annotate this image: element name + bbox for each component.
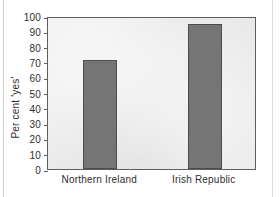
x-axis-tick-label: Irish Republic: [172, 174, 235, 185]
y-axis-tick-label: 70: [29, 59, 41, 69]
bar: [83, 60, 117, 169]
plot-area: 0102030405060708090100: [47, 17, 256, 170]
y-axis-tick: 30: [29, 120, 48, 130]
y-axis-tick-label: 30: [29, 120, 41, 130]
y-axis-tick: 100: [24, 13, 48, 23]
y-axis-tick-label: 100: [24, 13, 41, 23]
bar-chart-figure: Per cent 'yes' 0102030405060708090100 No…: [0, 0, 279, 197]
y-axis-tick-label: 0: [35, 166, 41, 176]
y-axis-tick: 40: [29, 105, 48, 115]
y-axis-tick: 60: [29, 74, 48, 84]
y-axis-tick-label: 90: [29, 28, 41, 38]
y-axis-tick-label: 50: [29, 90, 41, 100]
page-edge-rule-left: [3, 0, 4, 197]
y-axis-title: Per cent 'yes': [8, 31, 22, 184]
y-axis-tick-mark: [44, 171, 48, 172]
y-axis-tick: 90: [29, 28, 48, 38]
y-axis-tick-label: 40: [29, 105, 41, 115]
y-axis-tick: 20: [29, 135, 48, 145]
y-axis-tick-label: 80: [29, 44, 41, 54]
y-axis-tick-label: 60: [29, 74, 41, 84]
y-axis-tick: 80: [29, 44, 48, 54]
y-axis-tick: 10: [29, 151, 48, 161]
y-axis-tick-label: 20: [29, 135, 41, 145]
bars-layer: [48, 18, 255, 169]
page-edge-rule-right: [272, 0, 273, 197]
x-axis-tick-label: Northern Ireland: [62, 174, 137, 185]
y-axis-tick: 70: [29, 59, 48, 69]
y-axis-tick-label: 10: [29, 151, 41, 161]
bar: [188, 24, 222, 169]
y-axis-tick: 50: [29, 90, 48, 100]
x-axis-labels: Northern IrelandIrish Republic: [47, 174, 256, 190]
